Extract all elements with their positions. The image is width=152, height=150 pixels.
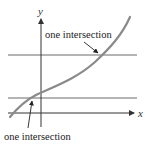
horizontal-line-test-diagram: y x one intersection one intersection [0, 0, 152, 150]
upper-intersection-arrow [84, 42, 98, 53]
upper-intersection-label: one intersection [45, 29, 113, 40]
lower-intersection-arrow [28, 101, 32, 128]
x-axis-label: x [137, 107, 143, 119]
y-axis-label: y [37, 5, 43, 17]
lower-intersection-label: one intersection [4, 131, 72, 142]
